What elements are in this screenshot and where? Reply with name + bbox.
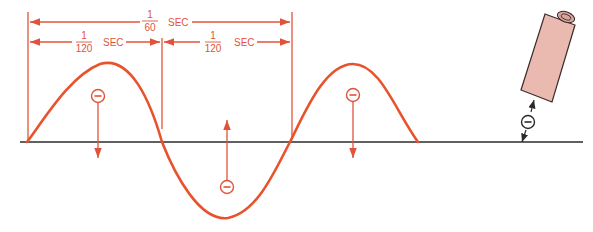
full-period-dimension: 1 60 SEC (30, 9, 290, 33)
electron-charge-probe-gap (522, 100, 535, 142)
half-period-left-dimension: 1 120 SEC (30, 30, 160, 54)
half-period-left-denominator: 120 (76, 43, 93, 54)
half-period-right-unit: SEC (234, 37, 255, 48)
full-period-numerator: 1 (147, 9, 153, 20)
electron-charge-second-crest (347, 89, 360, 159)
arrow-up-icon (531, 100, 534, 112)
full-period-unit: SEC (168, 17, 189, 28)
arrow-down-icon (522, 130, 526, 142)
full-period-denominator: 60 (144, 22, 156, 33)
half-period-left-unit: SEC (103, 37, 124, 48)
electron-charge-first-crest (92, 90, 105, 159)
half-period-right-denominator: 120 (205, 43, 222, 54)
half-period-left-numerator: 1 (81, 30, 87, 41)
dimension-extension-lines (28, 12, 292, 142)
electron-charge-trough (221, 120, 234, 194)
half-period-right-numerator: 1 (210, 30, 216, 41)
ac-sine-wave (27, 63, 418, 218)
half-period-right-dimension: 1 120 SEC (164, 30, 290, 54)
probe-icon (521, 9, 576, 102)
ac-waveform-diagram: 1 60 SEC 1 120 SEC 1 120 SEC (0, 0, 593, 232)
